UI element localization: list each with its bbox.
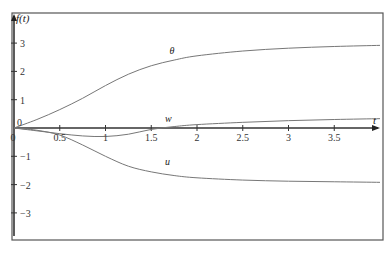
x-tick-label: 1 [103, 132, 108, 143]
y-axis-title: f(t) [16, 12, 30, 25]
y-tick-label: 0 [17, 117, 22, 128]
x-tick-label: 2.5 [237, 132, 250, 143]
curves [14, 45, 380, 182]
y-tick-label: 3 [20, 38, 25, 49]
x-tick-label: 3 [286, 132, 291, 143]
y-tick-label: −2 [20, 180, 31, 191]
labels: f(t)t00.511.522.533.53210−1−2−3θwu [11, 12, 378, 219]
x-axis-title: t [373, 114, 377, 126]
x-tick-label: 0 [11, 132, 16, 143]
y-tick-label: 2 [20, 66, 25, 77]
curve-label-theta: θ [170, 45, 175, 56]
series-line-theta [14, 45, 380, 128]
x-tick-label: 0.5 [54, 132, 67, 143]
y-tick-label: −3 [20, 208, 31, 219]
x-tick-label: 1.5 [145, 132, 158, 143]
chart: f(t)t00.511.522.533.53210−1−2−3θwu [0, 0, 389, 254]
curve-label-w: w [165, 113, 172, 124]
y-tick-label: 1 [20, 95, 25, 106]
x-tick-label: 3.5 [328, 132, 341, 143]
x-tick-label: 2 [195, 132, 200, 143]
y-tick-label: −1 [20, 151, 31, 162]
curve-label-u: u [165, 156, 170, 167]
